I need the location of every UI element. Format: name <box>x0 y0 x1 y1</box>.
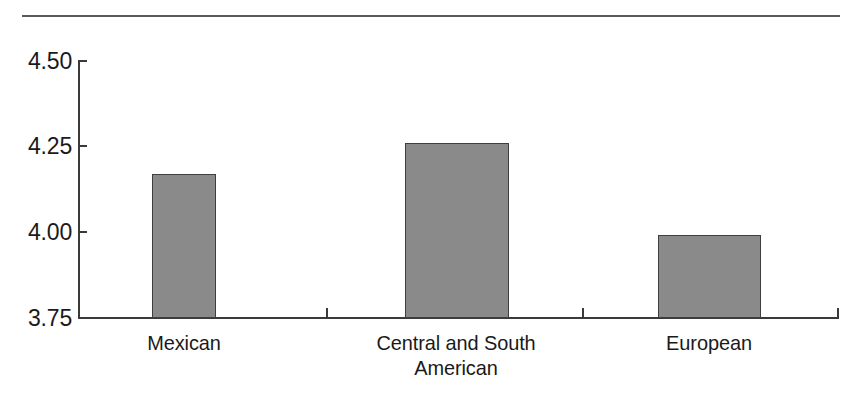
bar-mexican <box>152 174 216 318</box>
top-divider-rule <box>22 15 840 17</box>
bar-european <box>658 235 761 318</box>
category-label-line-1: European <box>633 330 785 355</box>
y-axis-tick-400 <box>78 231 87 233</box>
y-axis-label-375-box: 3.75 <box>0 305 72 331</box>
category-label-line-1: Central and South <box>342 330 570 355</box>
category-label-line-1: Mexican <box>108 330 260 355</box>
y-axis-label-400: 4.00 <box>0 219 72 246</box>
y-axis-line <box>78 60 80 319</box>
y-axis-tick-425 <box>78 145 87 147</box>
y-axis-label-425: 4.25 <box>0 133 72 160</box>
y-axis-label-450: 4.50 <box>0 48 72 75</box>
x-axis-category-label-european: European <box>633 330 785 355</box>
y-axis-label-425-box: 4.25 <box>0 133 72 159</box>
y-axis-label-400-box: 4.00 <box>0 219 72 245</box>
y-axis-tick-450 <box>78 60 87 62</box>
x-axis-category-label-mexican: Mexican <box>108 330 260 355</box>
category-label-line-2: American <box>342 355 570 380</box>
y-axis-label-450-box: 4.50 <box>0 48 72 74</box>
y-axis-tick-375 <box>78 317 87 319</box>
x-axis-category-label-central-and-south-american: Central and South American <box>342 330 570 380</box>
x-axis-tick-separator-1 <box>326 308 328 318</box>
bar-chart-figure: 4.50 4.25 4.00 3.75 Mexican Central and … <box>0 0 863 401</box>
x-axis-tick-end <box>837 308 839 318</box>
x-axis-tick-separator-2 <box>582 308 584 318</box>
bar-central-and-south-american <box>405 143 509 318</box>
y-axis-label-375: 3.75 <box>0 305 72 332</box>
